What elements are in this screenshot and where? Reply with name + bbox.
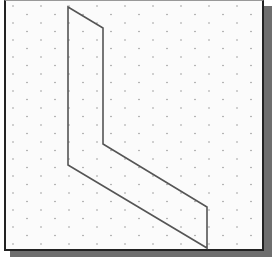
grid-dot: [236, 73, 238, 75]
grid-dot: [40, 90, 42, 92]
grid-dot: [152, 209, 154, 211]
grid-dot: [166, 133, 168, 135]
grid-dot: [222, 218, 224, 220]
grid-dot: [250, 150, 252, 152]
grid-dot: [236, 56, 238, 58]
grid-dot: [82, 201, 84, 203]
grid-dot: [236, 39, 238, 41]
grid-dot: [54, 150, 56, 152]
grid-dot: [180, 22, 182, 24]
grid-dot: [124, 226, 126, 228]
grid-dot: [180, 124, 182, 126]
grid-dot: [12, 209, 14, 211]
grid-dot: [68, 209, 70, 211]
grid-dot: [222, 48, 224, 50]
grid-dot: [54, 82, 56, 84]
grid-dot: [194, 133, 196, 135]
grid-dot: [82, 48, 84, 50]
grid-dot: [40, 73, 42, 75]
grid-dot: [180, 175, 182, 177]
grid-dot: [250, 14, 252, 16]
grid-dot: [96, 243, 98, 245]
isometric-dot-grid: [12, 5, 252, 245]
grid-dot: [236, 158, 238, 160]
grid-dot: [26, 218, 28, 220]
grid-dot: [194, 150, 196, 152]
grid-dot: [208, 192, 210, 194]
grid-dot: [194, 82, 196, 84]
grid-dot: [222, 31, 224, 33]
grid-dot: [166, 99, 168, 101]
grid-dot: [138, 99, 140, 101]
grid-dot: [26, 82, 28, 84]
grid-dot: [166, 218, 168, 220]
grid-dot: [208, 175, 210, 177]
l-shape-outline: [68, 7, 207, 248]
grid-dot: [40, 226, 42, 228]
grid-dot: [26, 150, 28, 152]
grid-dot: [110, 167, 112, 169]
grid-dot: [180, 158, 182, 160]
grid-dot: [236, 192, 238, 194]
grid-dot: [54, 99, 56, 101]
grid-dot: [110, 65, 112, 67]
grid-dot: [54, 14, 56, 16]
grid-dot: [180, 90, 182, 92]
grid-dot: [124, 124, 126, 126]
grid-dot: [110, 48, 112, 50]
grid-dot: [40, 56, 42, 58]
grid-dot: [96, 107, 98, 109]
grid-dot: [124, 39, 126, 41]
grid-dot: [208, 56, 210, 58]
grid-dot: [194, 167, 196, 169]
grid-dot: [54, 65, 56, 67]
grid-dot: [236, 243, 238, 245]
grid-dot: [194, 235, 196, 237]
grid-dot: [250, 48, 252, 50]
grid-dot: [12, 90, 14, 92]
grid-dot: [250, 99, 252, 101]
grid-dot: [96, 39, 98, 41]
grid-dot: [222, 82, 224, 84]
grid-dot: [124, 22, 126, 24]
grid-dot: [82, 218, 84, 220]
grid-dot: [166, 201, 168, 203]
grid-dot: [194, 31, 196, 33]
grid-dot: [82, 116, 84, 118]
grid-dot: [194, 218, 196, 220]
grid-dot: [96, 192, 98, 194]
grid-dot: [96, 5, 98, 7]
grid-dot: [152, 158, 154, 160]
grid-dot: [138, 235, 140, 237]
grid-dot: [222, 14, 224, 16]
grid-dot: [194, 65, 196, 67]
grid-dot: [124, 56, 126, 58]
grid-dot: [12, 5, 14, 7]
grid-dot: [110, 14, 112, 16]
grid-dot: [68, 243, 70, 245]
grid-dot: [68, 175, 70, 177]
grid-dot: [82, 235, 84, 237]
grid-dot: [82, 150, 84, 152]
grid-dot: [12, 175, 14, 177]
grid-dot: [124, 141, 126, 143]
grid-dot: [222, 235, 224, 237]
grid-dot: [12, 56, 14, 58]
grid-dot: [194, 99, 196, 101]
drawing-layer: [0, 0, 275, 265]
grid-dot: [40, 175, 42, 177]
grid-dot: [26, 167, 28, 169]
grid-dot: [40, 141, 42, 143]
grid-dot: [222, 184, 224, 186]
grid-dot: [96, 141, 98, 143]
grid-dot: [236, 175, 238, 177]
grid-dot: [152, 73, 154, 75]
grid-dot: [54, 48, 56, 50]
grid-dot: [250, 133, 252, 135]
grid-dot: [166, 82, 168, 84]
grid-dot: [40, 22, 42, 24]
grid-dot: [12, 226, 14, 228]
grid-dot: [54, 201, 56, 203]
grid-dot: [236, 90, 238, 92]
grid-dot: [110, 31, 112, 33]
